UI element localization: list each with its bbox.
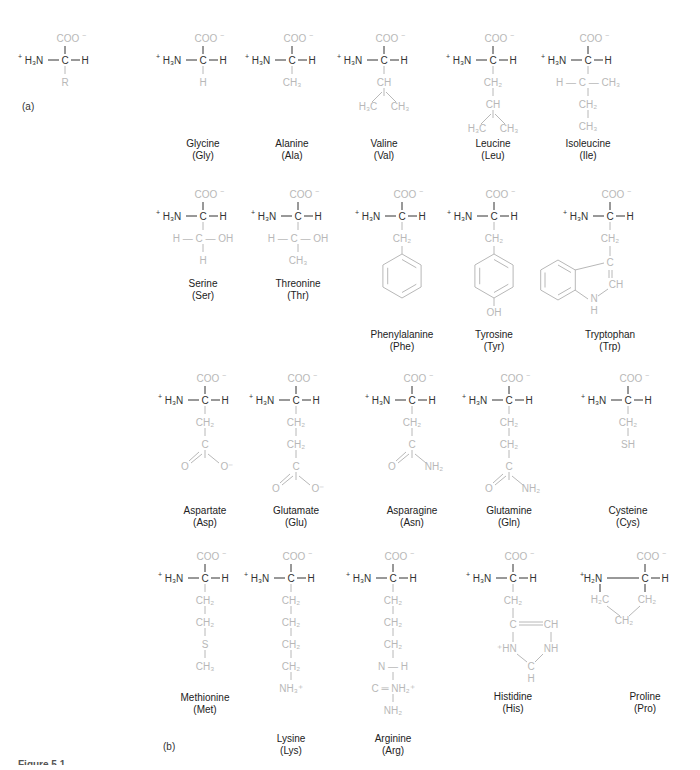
charge-sign: −	[82, 32, 86, 39]
charge-sign: −	[410, 550, 414, 557]
amine-group: H₃N	[469, 395, 488, 406]
amino-acid-label: Tyrosine(Tyr)	[434, 329, 554, 353]
nh-group: ⁺HN	[497, 643, 516, 654]
alpha-carbon: C	[288, 55, 295, 66]
side-chain-group: CH₃	[196, 661, 215, 672]
side-chain-group: CH₂	[484, 77, 502, 88]
amine-group: H₃N	[163, 55, 182, 66]
hydrogen: H	[314, 211, 321, 222]
amino-acid-name: Isoleucine	[528, 138, 648, 150]
charge-sign: +	[156, 53, 160, 60]
amino-acid-label: Glutamate(Glu)	[236, 505, 356, 529]
side-chain-group: SH	[621, 439, 635, 450]
carboxylate-group: COO	[197, 551, 220, 562]
hydrogen: H	[626, 211, 633, 222]
side-chain-group: CH₂	[384, 595, 402, 606]
side-chain-group: CH₂	[196, 617, 214, 628]
alpha-carbon: C	[505, 395, 512, 406]
carboxylate-group: COO	[620, 373, 643, 384]
alpha-carbon: C	[199, 55, 206, 66]
amino-acid-name: Arginine	[333, 733, 453, 745]
bond	[299, 476, 310, 485]
charge-sign: +	[337, 53, 341, 60]
amino-acid-label: Proline(Pro)	[585, 691, 700, 715]
carboxylate-group: COO	[376, 33, 399, 44]
hydroxyl: OH	[487, 307, 502, 318]
amino-acid-name: Proline	[585, 691, 700, 703]
charge-sign: −	[511, 188, 515, 195]
charge-sign: +	[462, 393, 466, 400]
side-chain-group: CH₂	[500, 439, 518, 450]
nitrogen: N	[590, 293, 597, 304]
side-chain-group: CH₂	[282, 595, 300, 606]
amino-acid-abbreviation: (Gln)	[449, 517, 569, 529]
hydrogen: H	[219, 55, 226, 66]
methylene: CH₂	[615, 615, 633, 626]
double-bond	[493, 474, 503, 483]
amino-acid-name: Valine	[324, 138, 444, 150]
carbon: C	[606, 257, 613, 268]
amino-acid-abbreviation: (Met)	[145, 704, 265, 716]
carboxylate-group: COO	[602, 189, 625, 200]
side-chain-group: CH₂	[196, 595, 214, 606]
double-bond	[282, 476, 293, 485]
amino-acid-abbreviation: (Pro)	[585, 703, 700, 715]
carboxylate-group: COO	[637, 551, 660, 562]
double-bond	[396, 452, 406, 461]
side-chain-group: C ═ NH₂⁺	[371, 683, 414, 694]
charge-sign: −	[530, 550, 534, 557]
bond	[598, 289, 608, 296]
hydrogen: H	[509, 55, 516, 66]
hydrogen: H	[510, 211, 517, 222]
charge-sign: +	[18, 53, 22, 60]
side-group: O⁻	[312, 483, 325, 494]
side-chain-group: CH₂	[282, 661, 300, 672]
amine-group: H₃N	[454, 211, 473, 222]
charge-sign: −	[627, 188, 631, 195]
nh-group: NH	[544, 643, 558, 654]
side-chain-group: N — H	[378, 661, 408, 672]
panel-b-label: (b)	[163, 741, 175, 752]
side-chain-group: C	[201, 439, 208, 450]
double-bond	[517, 654, 527, 662]
methyl-group: H₃C	[468, 123, 487, 134]
hydrogen: H	[400, 55, 407, 66]
side-chain-group: C	[505, 461, 512, 472]
alpha-carbon: C	[509, 573, 516, 584]
carboxylate-group: COO	[283, 551, 306, 562]
alpha-carbon: C	[201, 395, 208, 406]
alpha-carbon: C	[584, 55, 591, 66]
charge-sign: −	[315, 188, 319, 195]
side-chain-group: CH₂	[384, 617, 402, 628]
charge-sign: −	[510, 32, 514, 39]
charge-sign: +	[365, 393, 369, 400]
charge-sign: −	[419, 188, 423, 195]
amino-acid-label: Methionine(Met)	[145, 692, 265, 716]
charge-sign: +	[447, 209, 451, 216]
oxygen: O	[181, 461, 189, 472]
alpha-carbon: C	[489, 55, 496, 66]
amino-acid-label: Isoleucine(Ile)	[528, 138, 648, 162]
carboxylate-group: COO	[195, 33, 218, 44]
amino-acid-label: Arginine(Arg)	[333, 733, 453, 757]
methylene: CH₂	[504, 595, 522, 606]
charge-sign: −	[313, 372, 317, 379]
carboxylate-group: COO	[501, 373, 524, 384]
r-group: R	[61, 77, 68, 88]
amino-acid-label: Histidine(His)	[453, 691, 573, 715]
carboxylate-group: COO	[404, 373, 427, 384]
amino-acid-label: Valine(Val)	[324, 138, 444, 162]
charge-sign: +	[245, 53, 249, 60]
hydrogen: H	[221, 395, 228, 406]
alpha-carbon: C	[389, 573, 396, 584]
side-chain-group: CH₂	[287, 439, 305, 450]
side-chain-group: CH₂	[282, 639, 300, 650]
side-chain-group: CH₂	[196, 417, 214, 428]
charge-sign: +	[446, 53, 450, 60]
amine-group: H₂N	[584, 573, 602, 584]
alpha-carbon: C	[408, 395, 415, 406]
amino-acid-name: Methionine	[145, 692, 265, 704]
side-chain-group: H — C — OH	[173, 233, 234, 244]
carboxylate-group: COO	[485, 33, 508, 44]
hydrogen: H	[312, 395, 319, 406]
